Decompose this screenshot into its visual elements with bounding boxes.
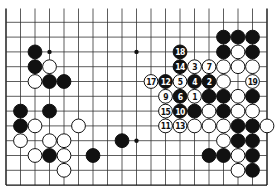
black-stone bbox=[246, 163, 260, 177]
black-stone bbox=[217, 30, 231, 44]
move-number: 9 bbox=[163, 92, 168, 102]
white-stone bbox=[217, 60, 231, 74]
star-point-dot bbox=[134, 50, 138, 54]
move-number: 3 bbox=[192, 62, 197, 72]
go-board: 18143717125421996115101113 bbox=[0, 0, 278, 195]
move-number: 1 bbox=[192, 92, 197, 102]
white-stone bbox=[72, 119, 86, 133]
white-stone-icon bbox=[28, 149, 42, 163]
black-stone-icon bbox=[14, 119, 28, 133]
white-stone bbox=[43, 134, 57, 148]
black-stone-icon bbox=[246, 119, 260, 133]
white-stone bbox=[217, 75, 231, 89]
white-stone bbox=[14, 134, 28, 148]
black-stone bbox=[43, 149, 57, 163]
white-stone-icon bbox=[231, 89, 245, 103]
black-stone bbox=[57, 75, 71, 89]
white-stone-icon bbox=[217, 119, 231, 133]
black-stone-icon bbox=[246, 30, 260, 44]
black-stone-icon bbox=[217, 30, 231, 44]
black-stone-move-10: 10 bbox=[173, 104, 187, 118]
black-stone-icon bbox=[246, 45, 260, 59]
black-stone-icon bbox=[43, 149, 57, 163]
move-number: 10 bbox=[175, 107, 185, 117]
black-stone-icon bbox=[217, 45, 231, 59]
white-stone bbox=[57, 163, 71, 177]
white-stone bbox=[202, 119, 216, 133]
black-stone-icon bbox=[231, 30, 245, 44]
white-stone-move-9: 9 bbox=[159, 89, 173, 103]
black-stone-move-6: 6 bbox=[173, 89, 187, 103]
white-stone-move-17: 17 bbox=[144, 75, 158, 89]
black-stone-icon bbox=[14, 104, 28, 118]
white-stone bbox=[231, 45, 245, 59]
white-stone-icon bbox=[246, 60, 260, 74]
move-number: 17 bbox=[146, 77, 156, 87]
move-number: 18 bbox=[175, 47, 185, 57]
black-stone bbox=[246, 89, 260, 103]
black-stone bbox=[202, 149, 216, 163]
black-stone-icon bbox=[231, 134, 245, 148]
white-stone bbox=[217, 119, 231, 133]
move-number: 7 bbox=[207, 62, 212, 72]
white-stone bbox=[188, 119, 202, 133]
white-stone-icon bbox=[188, 119, 202, 133]
white-stone-icon bbox=[231, 149, 245, 163]
black-stone-move-4: 4 bbox=[188, 75, 202, 89]
black-stone bbox=[217, 104, 231, 118]
black-stone bbox=[231, 119, 245, 133]
white-stone bbox=[231, 163, 245, 177]
black-stone-icon bbox=[217, 104, 231, 118]
white-stone-icon bbox=[217, 134, 231, 148]
white-stone-icon bbox=[57, 149, 71, 163]
black-stone-move-2: 2 bbox=[202, 75, 216, 89]
black-stone-move-12: 12 bbox=[159, 75, 173, 89]
black-stone-icon bbox=[202, 149, 216, 163]
white-stone bbox=[28, 149, 42, 163]
black-stone bbox=[246, 30, 260, 44]
white-stone-icon bbox=[14, 134, 28, 148]
black-stone-icon bbox=[246, 134, 260, 148]
black-stone-icon bbox=[28, 45, 42, 59]
white-stone-icon bbox=[246, 104, 260, 118]
black-stone bbox=[246, 149, 260, 163]
white-stone-move-7: 7 bbox=[202, 60, 216, 74]
white-stone-icon bbox=[43, 134, 57, 148]
move-number: 2 bbox=[207, 77, 212, 87]
white-stone bbox=[231, 60, 245, 74]
black-stone-icon bbox=[217, 89, 231, 103]
black-stone bbox=[14, 104, 28, 118]
white-stone bbox=[231, 149, 245, 163]
black-stone-icon bbox=[246, 149, 260, 163]
move-number: 6 bbox=[178, 92, 183, 102]
move-number: 11 bbox=[161, 121, 171, 131]
black-stone-icon bbox=[57, 75, 71, 89]
white-stone bbox=[246, 104, 260, 118]
black-stone bbox=[246, 45, 260, 59]
black-stone bbox=[14, 119, 28, 133]
white-stone-icon bbox=[57, 163, 71, 177]
move-number: 15 bbox=[161, 107, 171, 117]
black-stone-icon bbox=[202, 89, 216, 103]
white-stone-move-13: 13 bbox=[173, 119, 187, 133]
move-number: 14 bbox=[175, 62, 185, 72]
move-number: 13 bbox=[175, 121, 185, 131]
black-stone-icon bbox=[217, 149, 231, 163]
white-stone-icon bbox=[72, 119, 86, 133]
go-board-diagram: 18143717125421996115101113 bbox=[0, 0, 278, 195]
move-number: 4 bbox=[192, 77, 197, 87]
white-stone bbox=[202, 104, 216, 118]
black-stone bbox=[43, 75, 57, 89]
black-stone bbox=[43, 104, 57, 118]
black-stone bbox=[246, 134, 260, 148]
black-stone bbox=[231, 30, 245, 44]
black-stone-icon bbox=[86, 149, 100, 163]
white-stone bbox=[231, 89, 245, 103]
white-stone-move-5: 5 bbox=[173, 75, 187, 89]
black-stone-icon bbox=[246, 163, 260, 177]
move-number: 12 bbox=[161, 77, 171, 87]
star-point-dot bbox=[47, 50, 51, 54]
black-stone-icon bbox=[28, 60, 42, 74]
black-stone-icon bbox=[246, 89, 260, 103]
black-stone bbox=[28, 60, 42, 74]
